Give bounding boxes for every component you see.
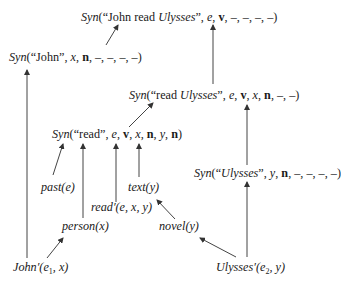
node-text: text(y) (128, 180, 159, 194)
node-person: person(x) (62, 219, 109, 233)
edge-novel-to-text (157, 200, 175, 219)
node-syn-ulysses: Syn(“Ulysses”, y, n, –, –, –, –) (194, 166, 341, 180)
node-syn-john: Syn(“John”, x, n, –, –, –, –) (9, 50, 142, 64)
edge-john-to-top (106, 25, 118, 45)
node-novel: novel(y) (159, 219, 199, 233)
node-john-prime: John′(e1, x) (13, 260, 68, 279)
node-syn-read-ulysses: Syn(“read Ulysses”, e, v, x, n, –, –) (129, 88, 299, 102)
edge-read-to-read-ulysses (129, 103, 153, 127)
edge-ulysses-prime-to-novel (200, 238, 236, 257)
node-syn-john-read-ulysses: Syn(“John read Ulysses”, e, v, –, –, –, … (81, 10, 277, 24)
node-ulysses-prime: Ulysses′(e2, y) (216, 260, 285, 279)
node-past: past(e) (41, 180, 75, 194)
node-syn-read: Syn(“read”, e, v, x, n, y, n) (52, 127, 182, 141)
edge-layer (0, 0, 341, 288)
edge-past-to-read (53, 144, 63, 175)
edge-john-prime-to-person (47, 238, 63, 258)
node-read-prime: read′(e, x, y) (91, 200, 152, 214)
